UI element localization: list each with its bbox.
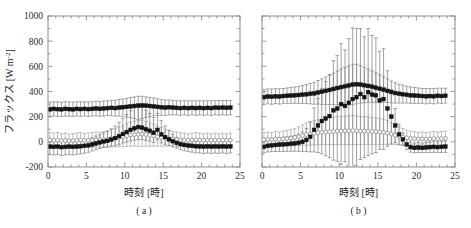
data-point-open-circle	[297, 135, 301, 139]
data-point-open-circle	[409, 136, 413, 140]
y-axis-title-main: フラックス [W m	[4, 58, 15, 134]
data-point-filled-square	[347, 101, 351, 105]
data-point-open-circle	[148, 133, 152, 137]
data-point-open-circle	[83, 139, 87, 143]
data-point-filled-square	[205, 144, 209, 148]
x-tick-label: 15	[158, 171, 168, 181]
data-point-open-circle	[355, 129, 359, 133]
data-point-open-circle	[133, 133, 137, 137]
data-point-filled-square	[179, 142, 183, 146]
data-point-filled-square	[159, 132, 163, 136]
x-tick-label: 0	[46, 171, 51, 181]
data-point-filled-square	[94, 107, 98, 111]
data-point-filled-square	[405, 142, 409, 146]
data-point-open-circle	[270, 138, 274, 142]
data-point-open-circle	[129, 133, 133, 137]
data-point-filled-square	[374, 86, 378, 90]
data-point-open-circle	[63, 138, 67, 142]
data-point-filled-square	[209, 106, 213, 110]
data-point-filled-square	[190, 106, 194, 110]
data-point-open-circle	[378, 130, 382, 134]
data-point-open-circle	[136, 132, 140, 136]
data-point-filled-square	[351, 83, 355, 87]
data-point-filled-square	[332, 108, 336, 112]
data-point-filled-square	[443, 94, 447, 98]
data-point-filled-square	[221, 144, 225, 148]
data-point-filled-square	[133, 126, 137, 130]
data-point-filled-square	[297, 141, 301, 145]
data-point-open-circle	[347, 129, 351, 133]
data-point-open-circle	[420, 137, 424, 141]
data-point-filled-square	[152, 104, 156, 108]
data-point-filled-square	[328, 88, 332, 92]
data-point-filled-square	[205, 106, 209, 110]
x-tick-label: 25	[450, 171, 460, 181]
data-point-filled-square	[167, 137, 171, 141]
data-point-open-circle	[229, 138, 233, 142]
y-tick-label: 0	[38, 137, 43, 147]
data-point-filled-square	[289, 94, 293, 98]
data-point-filled-square	[355, 95, 359, 99]
data-point-open-circle	[277, 137, 281, 141]
data-point-filled-square	[159, 105, 163, 109]
data-point-open-circle	[90, 138, 94, 142]
data-point-open-circle	[266, 137, 270, 141]
data-point-filled-square	[320, 119, 324, 123]
data-point-filled-square	[432, 145, 436, 149]
data-point-filled-square	[332, 87, 336, 91]
data-point-filled-square	[52, 107, 56, 111]
data-point-filled-square	[148, 129, 152, 133]
data-point-filled-square	[117, 134, 121, 138]
data-point-filled-square	[436, 145, 440, 149]
panel-caption-b: ( b )	[351, 206, 367, 217]
data-point-filled-square	[428, 94, 432, 98]
data-point-filled-square	[86, 143, 90, 147]
data-point-filled-square	[378, 98, 382, 102]
data-point-filled-square	[202, 145, 206, 149]
y-tick-label: 200	[29, 112, 44, 122]
data-point-filled-square	[397, 92, 401, 96]
data-point-filled-square	[106, 106, 110, 110]
data-point-filled-square	[209, 145, 213, 149]
x-tick-label: 0	[260, 171, 265, 181]
data-point-open-circle	[125, 134, 129, 138]
data-point-open-circle	[144, 133, 148, 137]
data-point-open-circle	[320, 130, 324, 134]
data-point-open-circle	[194, 138, 198, 142]
data-point-open-circle	[182, 138, 186, 142]
data-point-open-circle	[424, 137, 428, 141]
data-point-filled-square	[83, 107, 87, 111]
data-point-filled-square	[389, 115, 393, 119]
data-point-filled-square	[270, 95, 274, 99]
data-point-filled-square	[125, 130, 129, 134]
data-point-open-circle	[370, 130, 374, 134]
data-point-filled-square	[102, 140, 106, 144]
data-point-filled-square	[98, 141, 102, 145]
data-point-open-circle	[440, 137, 444, 141]
data-point-filled-square	[213, 144, 217, 148]
data-point-filled-square	[339, 102, 343, 106]
data-point-open-circle	[366, 129, 370, 133]
data-point-open-circle	[71, 139, 75, 143]
data-point-filled-square	[432, 94, 436, 98]
data-point-open-circle	[339, 129, 343, 133]
x-axis-title-b: 時刻 [時]	[339, 186, 378, 198]
data-point-filled-square	[86, 107, 90, 111]
data-point-open-circle	[304, 133, 308, 137]
data-point-filled-square	[94, 141, 98, 145]
data-point-open-circle	[389, 132, 393, 136]
data-point-filled-square	[52, 145, 56, 149]
data-point-filled-square	[121, 132, 125, 136]
data-point-filled-square	[409, 145, 413, 149]
data-point-open-circle	[60, 139, 64, 143]
data-point-open-circle	[443, 136, 447, 140]
x-tick-label: 5	[298, 171, 303, 181]
data-point-filled-square	[79, 144, 83, 148]
data-point-open-circle	[324, 130, 328, 134]
x-tick-label: 20	[197, 171, 207, 181]
data-point-filled-square	[136, 125, 140, 129]
data-point-filled-square	[386, 89, 390, 93]
data-point-filled-square	[355, 82, 359, 86]
y-tick-label: -200	[26, 162, 44, 172]
data-point-open-circle	[75, 138, 79, 142]
